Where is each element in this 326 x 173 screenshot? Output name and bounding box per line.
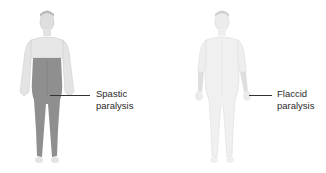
spastic-leader-line — [50, 95, 90, 96]
affected-region — [32, 58, 63, 157]
foot-right — [226, 157, 234, 163]
flaccid-label-line2: paralysis — [277, 100, 315, 112]
foot-right — [51, 157, 59, 163]
spastic-label: Spastic paralysis — [96, 88, 134, 112]
body-outline — [198, 11, 246, 158]
hand-right — [243, 91, 251, 101]
flaccid-paralysis-figure — [163, 0, 326, 173]
flaccid-label-line1: Flaccid — [277, 88, 315, 100]
hand-left — [195, 91, 203, 101]
flaccid-leader-line — [249, 95, 272, 96]
spastic-label-line1: Spastic — [96, 88, 134, 100]
foot-left — [35, 157, 43, 163]
flaccid-label: Flaccid paralysis — [277, 88, 315, 112]
spastic-label-line2: paralysis — [96, 100, 134, 112]
spastic-paralysis-figure — [0, 0, 163, 173]
foot-left — [210, 157, 218, 163]
